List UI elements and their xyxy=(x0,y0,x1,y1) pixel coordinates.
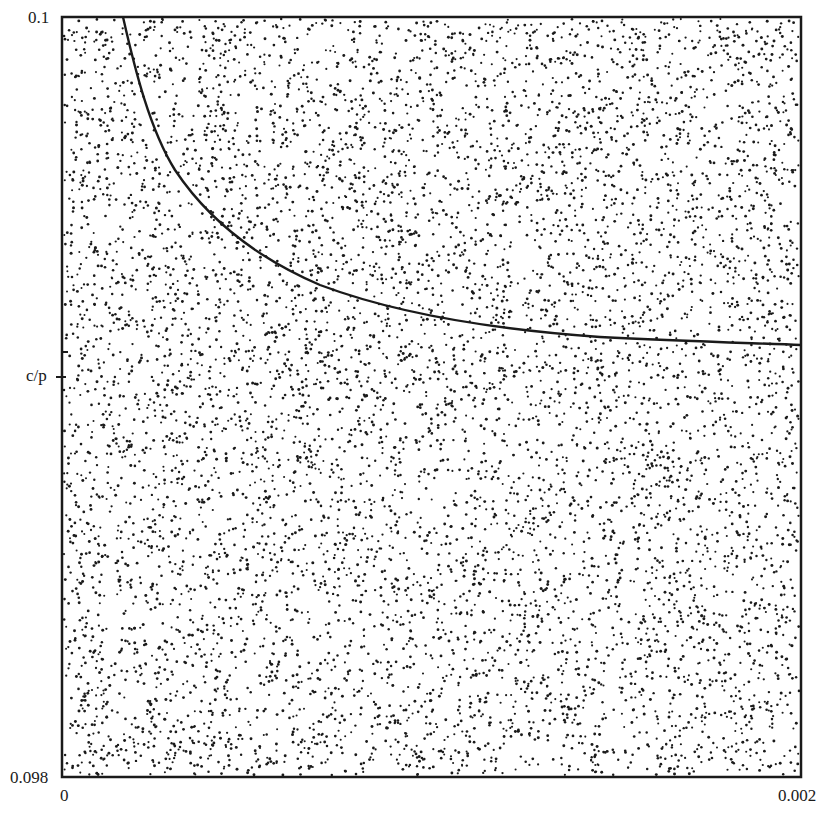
y-axis-max-label: 0.1 xyxy=(28,9,49,26)
y-axis-min-label: 0.098 xyxy=(10,769,48,786)
curve-line xyxy=(123,17,801,345)
x-axis-max-label: 0.002 xyxy=(778,787,816,804)
y-axis-cp-label: c/p xyxy=(26,367,47,384)
scatter-plot xyxy=(0,0,833,815)
scatter-points xyxy=(63,18,801,777)
x-axis-min-label: 0 xyxy=(60,787,69,804)
